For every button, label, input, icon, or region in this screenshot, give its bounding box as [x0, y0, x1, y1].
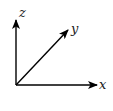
y-axis-arrow	[16, 30, 68, 85]
axes-diagram: x y z	[0, 0, 113, 111]
y-axis-label: y	[70, 21, 79, 36]
x-axis-label: x	[99, 77, 107, 92]
axes-svg: x y z	[0, 0, 113, 111]
z-axis-label: z	[18, 5, 26, 20]
